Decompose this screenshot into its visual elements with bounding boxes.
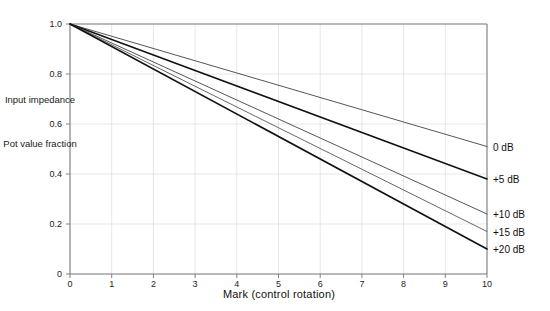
- input-impedance-text: Input impedance: [5, 94, 75, 105]
- x-tick-label: 2: [151, 279, 156, 289]
- tick-marks: [66, 24, 487, 278]
- y-tick-label: 0.4: [30, 169, 62, 179]
- x-tick-label: 1: [109, 279, 114, 289]
- x-tick-label: 10: [482, 279, 492, 289]
- pot-value-fraction-text: Pot value fraction: [3, 138, 76, 149]
- series-label--15-db: +15 dB: [493, 226, 525, 237]
- series-label--20-db: +20 dB: [493, 244, 525, 255]
- y-tick-label: 0: [30, 269, 62, 279]
- x-tick-label: 7: [359, 279, 364, 289]
- plot-canvas: [0, 0, 550, 311]
- x-tick-label: 9: [443, 279, 448, 289]
- y-axis-caption-input-impedance: Input impedance: [5, 94, 75, 105]
- chart-figure: 00.20.40.60.81.0 012345678910 Input impe…: [0, 0, 550, 311]
- y-tick-label: 0.2: [30, 219, 62, 229]
- x-tick-label: 0: [67, 279, 72, 289]
- x-tick-label: 3: [193, 279, 198, 289]
- series-label--5-db: +5 dB: [493, 174, 519, 185]
- y-tick-label: 0.8: [30, 69, 62, 79]
- x-tick-label: 8: [401, 279, 406, 289]
- y-tick-label: 1.0: [30, 19, 62, 29]
- gridlines: [70, 24, 487, 274]
- y-tick-label: 0.6: [30, 119, 62, 129]
- y-axis-caption-pot-value-fraction: Pot value fraction: [3, 138, 76, 149]
- series-label-0-db: 0 dB: [493, 141, 514, 152]
- series-label--10-db: +10 dB: [493, 209, 525, 220]
- x-axis-title: Mark (control rotation): [223, 288, 335, 300]
